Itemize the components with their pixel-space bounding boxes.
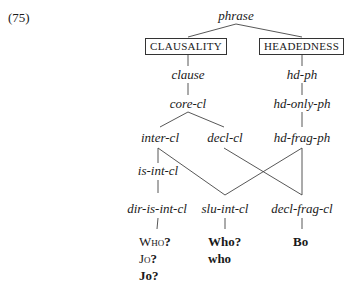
example-item: who [208, 250, 241, 267]
example-item: Bo [293, 233, 308, 250]
dimension-headedness: HEADEDNESS [259, 38, 344, 55]
node-hd-only-ph: hd-only-ph [273, 97, 330, 111]
examples-decl-frag-cl: Bo [293, 233, 308, 250]
node-slu-int-cl: slu-int-cl [202, 202, 249, 216]
node-decl-frag-cl: decl-frag-cl [271, 202, 332, 216]
node-hd-ph: hd-ph [287, 68, 317, 82]
node-hd-frag-ph: hd-frag-ph [274, 131, 330, 145]
node-dir-is-int-cl: dir-is-int-cl [127, 202, 187, 216]
examples-dir-is-int-cl: Who? Jo? Jo? [139, 233, 171, 282]
node-clause: clause [171, 68, 204, 82]
example-item: Jo? [139, 267, 171, 282]
example-item: Who? [208, 233, 241, 250]
example-item: Jo? [139, 250, 171, 267]
node-phrase: phrase [218, 9, 253, 23]
example-item: Who? [139, 233, 171, 250]
examples-slu-int-cl: Who? who [208, 233, 241, 267]
node-is-int-cl: is-int-cl [138, 164, 178, 178]
node-core-cl: core-cl [170, 97, 206, 111]
dimension-clausality: CLAUSALITY [145, 38, 227, 55]
node-inter-cl: inter-cl [141, 131, 179, 145]
node-decl-cl: decl-cl [207, 131, 242, 145]
